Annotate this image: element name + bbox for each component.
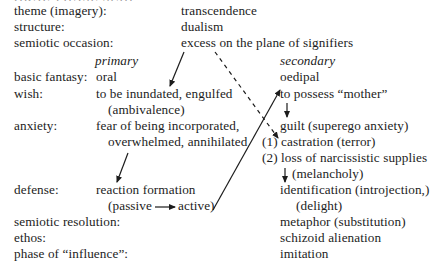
- label-phase-of-influence: phase of “influence”:: [14, 247, 128, 261]
- value-basic-fantasy-primary: oral: [96, 70, 117, 84]
- value-structure: dualism: [181, 20, 223, 34]
- label-basic-fantasy: basic fantasy:: [14, 70, 88, 84]
- arrow-anxiety-to-defense-icon: [117, 153, 128, 182]
- value-defense-secondary: identification (introjection,): [280, 183, 429, 197]
- value-anxiety-secondary: guilt (superego anxiety): [280, 119, 408, 133]
- value-theme: transcendence: [181, 4, 257, 18]
- label-semiotic-resolution: semiotic resolution:: [14, 215, 120, 229]
- value-anxiety-primary-sub: overwhelmed, annihilated: [108, 135, 247, 149]
- label-theme: theme (imagery):: [14, 4, 107, 18]
- value-wish-secondary: to possess “mother”: [280, 87, 387, 101]
- value-defense-primary-sub-right: active): [178, 199, 215, 213]
- value-wish-primary: to be inundated, engulfed: [96, 87, 233, 101]
- header-fragment: ORAL-PHASE SCHEMA: [14, 0, 134, 1]
- value-anxiety-secondary-2: (2) loss of narcissistic supplies: [262, 151, 427, 165]
- value-anxiety-secondary-1: (1) castration (terror): [262, 135, 376, 149]
- value-semiotic-occasion: excess on the plane of signifiers: [181, 36, 353, 50]
- label-semiotic-occasion: semiotic occasion:: [14, 36, 114, 50]
- label-structure: structure:: [14, 20, 65, 34]
- column-header-primary: primary: [95, 54, 138, 68]
- value-ethos: schizoid alienation: [280, 231, 381, 245]
- value-defense-primary-sub-left: (passive: [108, 199, 152, 213]
- column-header-secondary: secondary: [280, 54, 335, 68]
- value-anxiety-secondary-3: (melancholy): [292, 167, 364, 181]
- value-basic-fantasy-secondary: oedipal: [280, 70, 320, 84]
- value-wish-primary-sub: (ambivalence): [108, 103, 185, 117]
- value-phase-of-influence: imitation: [280, 247, 329, 261]
- value-semiotic-resolution: metaphor (substitution): [280, 215, 406, 229]
- value-defense-primary: reaction formation: [96, 183, 196, 197]
- arrow-excess-to-wish-icon: [170, 52, 184, 86]
- label-defense: defense:: [14, 183, 59, 197]
- value-anxiety-primary: fear of being incorporated,: [96, 119, 239, 133]
- label-ethos: ethos:: [14, 231, 46, 245]
- label-wish: wish:: [14, 87, 43, 101]
- header-fragment-text: ORAL-PHASE SCHEMA: [14, 0, 134, 1]
- value-defense-secondary-sub: (delight): [296, 199, 342, 213]
- label-anxiety: anxiety:: [14, 119, 57, 133]
